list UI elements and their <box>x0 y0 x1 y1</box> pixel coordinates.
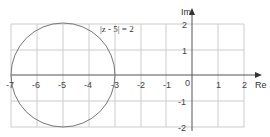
x-tick: -1 <box>163 80 171 90</box>
x-tick: -5 <box>58 80 66 90</box>
y-tick: 1 <box>182 46 187 56</box>
real-axis-arrow-icon <box>255 72 262 78</box>
y-tick: -1 <box>178 97 186 107</box>
x-tick: 2 <box>242 80 247 90</box>
x-tick-labels: -7 -6 -5 -4 -3 -2 -1 0 1 2 <box>6 78 247 90</box>
imaginary-axis-label: Im <box>181 7 191 17</box>
x-tick: 1 <box>216 80 221 90</box>
x-tick: -4 <box>84 80 92 90</box>
y-tick: -2 <box>178 123 186 133</box>
x-tick: -2 <box>137 80 145 90</box>
complex-plane-diagram: Im Re |z - 5| = 2 -7 -6 -5 -4 -3 -2 -1 0… <box>0 0 270 137</box>
axes <box>11 12 257 131</box>
x-tick: -6 <box>32 80 40 90</box>
y-tick: 2 <box>182 20 187 30</box>
y-tick-labels: 2 1 -1 -2 <box>178 20 187 133</box>
equation-label: |z - 5| = 2 <box>100 24 134 34</box>
x-tick: 0 <box>185 78 190 88</box>
x-tick: -7 <box>6 80 14 90</box>
real-axis-label: Re <box>255 80 267 90</box>
x-tick: -3 <box>111 80 119 90</box>
